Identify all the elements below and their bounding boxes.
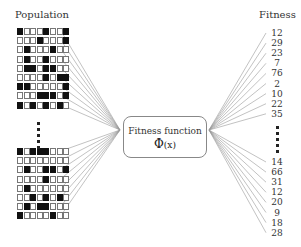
fitness-value: 12 [266,187,288,197]
bit-one [24,56,30,63]
bit-one [17,83,23,90]
fitness-value: 29 [266,38,288,48]
fitness-value: 7 [266,58,288,68]
bit-zero [50,176,56,183]
fitness-value: 2 [266,79,288,89]
fitness-value: 12 [266,28,288,38]
bit-zero [63,65,69,72]
bit-zero [50,185,56,192]
individual-bitstring [17,65,70,71]
connector-line [209,130,266,202]
bit-one [50,46,56,53]
bit-zero [17,74,23,81]
bit-one [63,28,69,35]
bit-zero [24,28,30,35]
ellipsis-dot-icon [276,132,279,135]
bit-one [43,28,49,35]
bit-zero [37,46,43,53]
individual-bitstring [17,148,70,154]
bit-one [50,212,56,219]
bit-one [24,83,30,90]
connector-line [61,130,120,188]
bit-zero [30,92,36,99]
bit-zero [50,37,56,44]
fitness-label: Fitness [259,9,296,20]
bit-one [30,102,36,109]
bit-zero [63,148,69,155]
individual-bitstring [17,212,70,218]
bit-zero [24,194,30,201]
bit-zero [50,74,56,81]
bit-one [30,65,36,72]
bit-one [17,28,23,35]
bit-zero [63,212,69,219]
bit-zero [43,185,49,192]
bit-one [43,56,49,63]
fitness-value: 28 [266,228,288,238]
bit-zero [24,92,30,99]
individual-bitstring [17,46,70,52]
connector-line [209,53,266,130]
bit-one [63,92,69,99]
connector-line [209,130,266,223]
individual-bitstring [17,37,70,43]
bit-zero [17,166,23,173]
connector-line [209,130,266,233]
bit-one [24,166,30,173]
bit-zero [50,157,56,164]
bit-zero [30,166,36,173]
bit-zero [37,157,43,164]
bit-zero [24,102,30,109]
bit-one [50,166,56,173]
bit-one [37,92,43,99]
bit-zero [24,176,30,183]
bit-zero [50,56,56,63]
bit-zero [63,46,69,53]
bit-one [63,37,69,44]
bit-one [37,37,43,44]
bit-one [30,148,36,155]
bit-zero [57,46,63,53]
ellipsis-dot-icon [37,122,40,125]
fitness-value: 18 [266,218,288,228]
bit-zero [17,92,23,99]
bit-zero [17,194,23,201]
individual-bitstring [17,83,70,89]
bit-zero [17,157,23,164]
bit-zero [30,157,36,164]
connector-line [61,130,120,215]
bit-one [37,203,43,210]
bit-one [43,148,49,155]
bit-zero [37,28,43,35]
bit-zero [43,157,49,164]
bit-zero [43,83,49,90]
individual-bitstring [17,28,70,34]
individual-bitstring [17,56,70,62]
bit-zero [24,157,30,164]
fitness-value: 14 [266,157,288,167]
bit-one [50,65,56,72]
fitness-value: 23 [266,48,288,58]
bit-zero [50,28,56,35]
connector-line [61,59,120,130]
bit-zero [30,37,36,44]
bit-zero [50,148,56,155]
bit-zero [30,56,36,63]
bit-one [63,74,69,81]
connector-line [61,31,120,130]
bit-one [24,46,30,53]
bit-zero [30,83,36,90]
ellipsis-dot-icon [37,146,40,149]
bit-zero [57,212,63,219]
individual-bitstring [17,203,70,209]
connector-line [61,95,120,130]
bit-zero [37,102,43,109]
bit-one [17,148,23,155]
bit-zero [17,203,23,210]
ellipsis-dot-icon [37,134,40,137]
bit-zero [57,92,63,99]
bit-one [57,74,63,81]
bit-zero [17,46,23,53]
bit-one [43,92,49,99]
bit-zero [63,102,69,109]
